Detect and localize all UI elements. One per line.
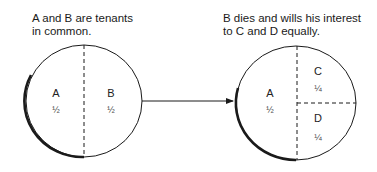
owner-label-b: B <box>107 87 114 99</box>
share-label-a: ½ <box>52 105 60 115</box>
share-label-d: ¼ <box>314 132 322 142</box>
owner-label-c: C <box>314 65 322 77</box>
owner-label-a: A <box>52 87 60 99</box>
left-ownership-circle: A ½ B ½ <box>24 45 142 157</box>
share-label-c: ¼ <box>314 83 322 93</box>
owner-label-d: D <box>314 112 322 124</box>
owner-label-a: A <box>266 87 274 99</box>
share-label-a: ½ <box>266 105 274 115</box>
tenancy-diagram: A ½ B ½ A ½ C ¼ D ¼ <box>0 0 377 172</box>
right-ownership-circle: A ½ C ¼ D ¼ <box>236 46 356 160</box>
share-label-b: ½ <box>107 105 115 115</box>
